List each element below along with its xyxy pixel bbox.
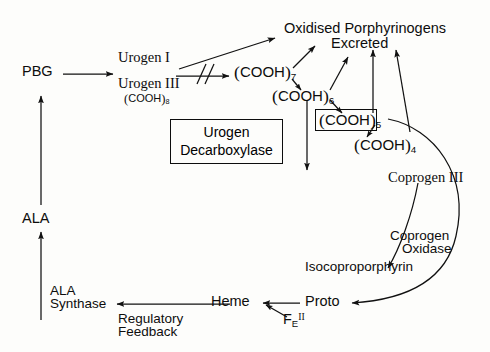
arrow-cooh7-to-excreted — [293, 46, 315, 68]
node-excreted: Excreted — [331, 36, 388, 52]
species-cooh8: (COOH)8 — [124, 93, 169, 107]
block-marker-slash-2 — [205, 64, 214, 84]
pathway-diagram: PBG ALA ALA Synthase Regulatory Feedback… — [0, 0, 490, 352]
cooh5-count: 5 — [376, 119, 382, 130]
enzyme-box-line2: Decarboxylase — [180, 142, 273, 160]
cooh7-label: COOH — [240, 63, 285, 80]
cooh4-count: 4 — [411, 144, 417, 155]
enzyme-box-urogen-decarboxylase: Urogen Decarboxylase — [170, 119, 283, 164]
cooh8-label: COOH — [128, 92, 161, 104]
node-isocoproporphyrin: Isocoproporphyrin — [305, 260, 413, 275]
node-coprogen-iii: Coprogen III — [388, 170, 463, 186]
enzyme-box-line1: Urogen — [204, 124, 250, 142]
node-ala-synthase-line2: Synthase — [50, 297, 106, 312]
block-marker-slash-1 — [197, 64, 206, 84]
iron-element: F — [283, 311, 292, 327]
species-cooh6: (COOH)6 — [272, 87, 334, 106]
species-cooh5: (COOH)5 — [319, 111, 381, 130]
cooh6-count: 6 — [329, 95, 335, 106]
arrow-cooh6-to-excreted — [330, 57, 348, 90]
label-iron-fe2: FEII — [283, 312, 305, 329]
node-urogen-iii: Urogen III — [118, 76, 180, 92]
label-regulatory-feedback-line2: Feedback — [118, 325, 177, 340]
arrow-cooh4-to-excreted — [396, 50, 410, 132]
cooh4-label: COOH — [360, 136, 405, 153]
node-heme: Heme — [211, 294, 250, 310]
label-coprogen-oxidase-line2: Oxidase — [402, 242, 452, 257]
node-urogen-i: Urogen I — [118, 50, 170, 66]
species-cooh4: (COOH)4 — [354, 136, 416, 155]
species-cooh7: (COOH)7 — [234, 63, 296, 82]
node-ala: ALA — [22, 211, 49, 227]
cooh8-count: 8 — [165, 97, 169, 106]
iron-valence: II — [298, 311, 305, 322]
cooh7-count: 7 — [291, 71, 297, 82]
node-pbg: PBG — [22, 64, 53, 80]
cooh5-label: COOH — [325, 111, 370, 128]
node-proto: Proto — [305, 294, 340, 310]
cooh6-label: COOH — [278, 87, 323, 104]
